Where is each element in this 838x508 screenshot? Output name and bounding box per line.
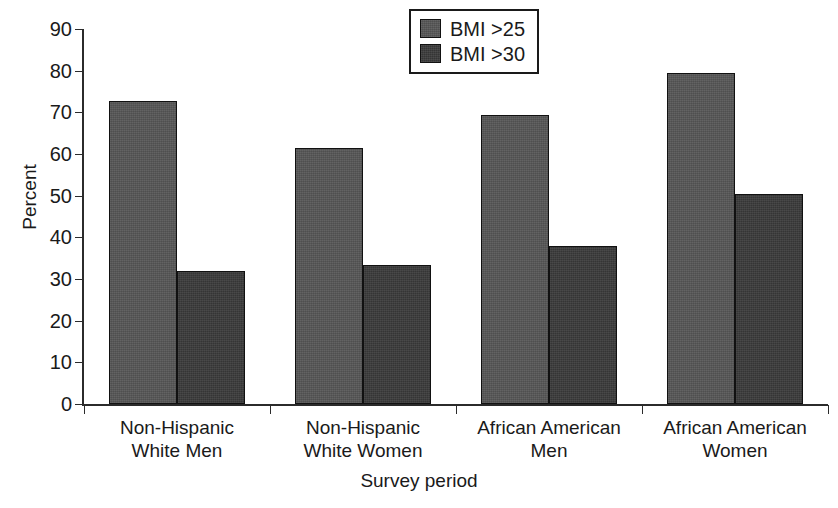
x-axis-title: Survey period — [0, 470, 838, 492]
legend-label: BMI >30 — [450, 44, 525, 64]
bar-chart: Percent 0102030405060708090 Non-Hispanic… — [0, 0, 838, 508]
y-tick-mark — [75, 362, 83, 363]
y-tick-mark — [75, 404, 83, 405]
y-tick-label: 40 — [10, 227, 72, 247]
y-tick-label: 10 — [10, 352, 72, 372]
y-tick-label: 70 — [10, 102, 72, 122]
y-tick-label: 60 — [10, 144, 72, 164]
x-tick-mark — [456, 405, 457, 414]
y-tick-mark — [75, 29, 83, 30]
legend-swatch-icon — [420, 44, 441, 63]
x-category-label: African American Men — [456, 416, 642, 462]
y-axis-tick-labels: 0102030405060708090 — [10, 0, 72, 508]
y-tick-mark — [75, 112, 83, 113]
y-tick-mark — [75, 279, 83, 280]
x-category-label: Non-Hispanic White Men — [84, 416, 270, 462]
plot-area — [84, 29, 828, 404]
y-tick-label: 90 — [10, 19, 72, 39]
x-axis-line — [82, 404, 828, 406]
legend: BMI >25BMI >30 — [409, 9, 539, 74]
bar — [363, 265, 431, 404]
x-category-label: African American Women — [642, 416, 828, 462]
bar — [295, 148, 363, 404]
legend-item: BMI >30 — [420, 41, 525, 66]
y-tick-mark — [75, 154, 83, 155]
y-tick-mark — [75, 237, 83, 238]
bar — [549, 246, 617, 404]
y-tick-mark — [75, 196, 83, 197]
legend-swatch-icon — [420, 19, 441, 38]
bar — [667, 73, 735, 404]
y-tick-label: 30 — [10, 269, 72, 289]
bar — [177, 271, 245, 404]
bar — [481, 115, 549, 404]
bar — [735, 194, 803, 404]
y-tick-label: 50 — [10, 186, 72, 206]
y-tick-mark — [75, 321, 83, 322]
bar — [109, 101, 177, 404]
x-tick-mark — [84, 405, 85, 414]
x-tick-mark — [270, 405, 271, 414]
legend-label: BMI >25 — [450, 19, 525, 39]
x-category-label: Non-Hispanic White Women — [270, 416, 456, 462]
y-tick-label: 0 — [10, 394, 72, 414]
legend-item: BMI >25 — [420, 16, 525, 41]
y-tick-mark — [75, 71, 83, 72]
x-tick-mark — [828, 405, 829, 414]
y-tick-label: 20 — [10, 311, 72, 331]
x-tick-mark — [642, 405, 643, 414]
y-tick-label: 80 — [10, 61, 72, 81]
